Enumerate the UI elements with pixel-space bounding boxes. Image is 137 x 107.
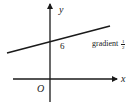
gradient-annotation: gradient 1 2 xyxy=(92,39,125,50)
origin-label: O xyxy=(37,84,44,94)
line-graph-diagram: y x O 6 gradient 1 2 xyxy=(0,0,137,107)
gradient-text: gradient xyxy=(92,39,118,48)
y-axis-label: y xyxy=(59,5,63,15)
gradient-fraction: 1 2 xyxy=(121,39,125,50)
y-intercept-label: 6 xyxy=(60,42,65,51)
x-axis-label: x xyxy=(121,74,125,84)
axes-and-line-svg xyxy=(0,0,137,107)
fraction-denominator: 2 xyxy=(122,45,125,50)
